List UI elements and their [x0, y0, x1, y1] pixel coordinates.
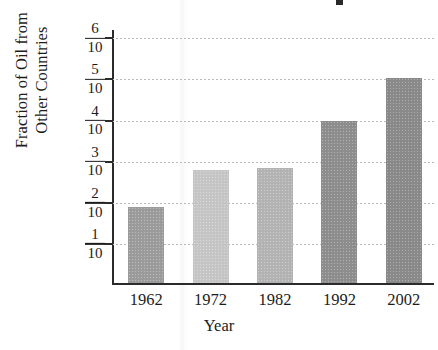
y-tick-mark — [105, 120, 113, 122]
fraction-denominator: 10 — [86, 81, 105, 96]
fraction-numerator: 4 — [89, 103, 101, 118]
y-axis-label: Fraction of Oil from Other Countries — [12, 0, 52, 190]
y-tick-label: 110 — [85, 227, 105, 261]
bar-fill — [193, 170, 229, 283]
y-tick-label: 610 — [85, 21, 105, 55]
fraction-numerator: 5 — [89, 62, 101, 77]
y-tick-label: 210 — [85, 186, 105, 220]
x-tick-label: 1972 — [194, 290, 227, 310]
fraction-numerator: 2 — [89, 186, 101, 201]
y-tick-mark — [105, 78, 113, 80]
y-tick-mark — [105, 243, 113, 245]
plot-area: 110210310410510610 — [112, 30, 434, 285]
fraction-numerator: 1 — [89, 227, 101, 242]
bar — [193, 170, 229, 283]
fraction-numerator: 6 — [89, 21, 101, 36]
fraction-denominator: 10 — [86, 40, 105, 55]
fraction-denominator: 10 — [86, 246, 105, 261]
x-tick-label: 2002 — [387, 290, 420, 310]
y-tick-label: 310 — [85, 144, 105, 178]
x-tick-label: 1962 — [130, 290, 163, 310]
fraction-denominator: 10 — [86, 122, 105, 137]
y-tick-mark — [105, 161, 113, 163]
clipped-title-fragment — [336, 0, 343, 5]
bar — [386, 78, 422, 284]
y-tick-mark — [105, 202, 113, 204]
x-tick-label: 1982 — [259, 290, 292, 310]
bar-fill — [386, 78, 422, 284]
fraction-denominator: 10 — [86, 204, 105, 219]
y-axis-line — [112, 30, 114, 285]
x-axis-line — [112, 283, 434, 285]
x-axis-label: Year — [0, 316, 438, 336]
bar-fill — [321, 121, 357, 284]
y-tick-label: 410 — [85, 103, 105, 137]
gridline — [112, 38, 434, 39]
bar — [257, 168, 293, 283]
y-tick-label: 510 — [85, 62, 105, 96]
bar — [321, 121, 357, 284]
fraction-denominator: 10 — [86, 163, 105, 178]
bar-fill — [128, 207, 164, 283]
y-tick-mark — [105, 37, 113, 39]
bar — [128, 207, 164, 283]
chart-figure: Fraction of Oil from Other Countries 110… — [0, 0, 438, 350]
bar-fill — [257, 168, 293, 283]
fraction-numerator: 3 — [89, 144, 101, 159]
x-tick-label: 1992 — [323, 290, 356, 310]
